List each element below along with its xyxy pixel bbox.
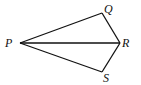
segment-qr xyxy=(102,13,120,43)
vertex-label-p: P xyxy=(4,36,13,50)
vertex-label-s: S xyxy=(103,71,109,85)
segment-pq xyxy=(20,13,102,43)
vertex-label-q: Q xyxy=(104,2,113,16)
kite-diagram: P Q R S xyxy=(0,0,141,85)
vertex-label-r: R xyxy=(121,36,130,50)
segment-sp xyxy=(20,43,102,72)
segment-rs xyxy=(102,43,120,72)
